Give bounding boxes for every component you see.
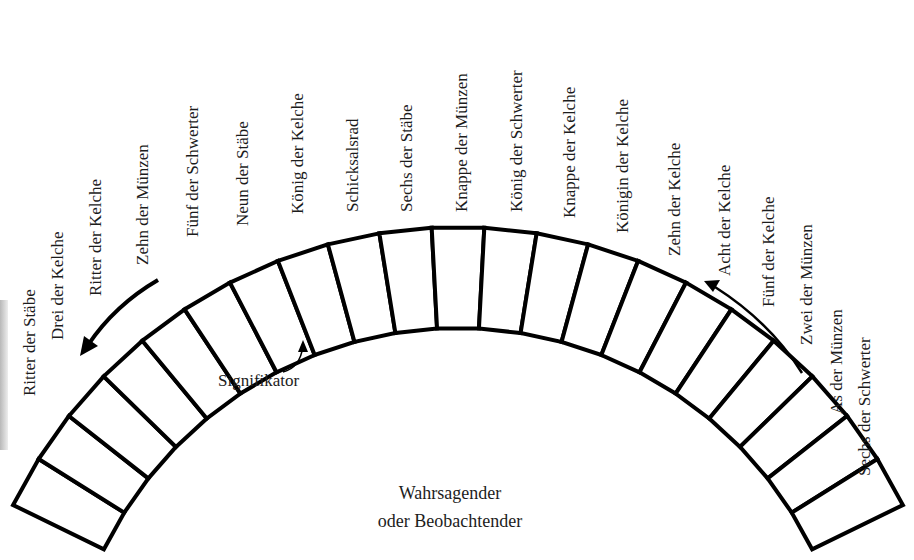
card-label: König der Kelche	[289, 93, 306, 214]
card-label: Acht der Kelche	[716, 165, 733, 276]
left-arrowhead-icon	[80, 336, 98, 356]
card-label: Königin der Kelche	[614, 99, 631, 233]
observer-label-line1: Wahrsagender	[330, 480, 570, 506]
card-label: Fünf der Kelche	[760, 197, 777, 307]
signifikator-label: Signifikator	[218, 371, 299, 391]
card-label: As der Münzen	[828, 309, 845, 414]
card-label: Ritter der Kelche	[87, 179, 104, 296]
card-label: Sechs der Stäbe	[398, 104, 415, 212]
card-label: Ritter der Stäbe	[21, 289, 38, 396]
card-label: Zehn der Münzen	[134, 144, 151, 265]
right-arrowhead-icon	[704, 280, 720, 292]
card-slot	[432, 228, 485, 329]
card-label: Fünf der Schwerter	[184, 106, 201, 237]
card-label: Zwei der Münzen	[798, 224, 815, 345]
card-label: König der Schwerter	[508, 70, 525, 212]
observer-label-line2: oder Beobachtender	[330, 508, 570, 534]
card-label: Drei der Kelche	[49, 231, 66, 340]
card-label: Neun der Stäbe	[234, 121, 251, 226]
card-label: Knappe der Kelche	[561, 87, 578, 218]
card-label: Zehn der Kelche	[666, 143, 683, 256]
card-label: Knappe der Münzen	[453, 73, 470, 212]
card-label: Schicksalsrad	[344, 119, 361, 212]
card-label: Sechs der Schwerter	[856, 337, 873, 476]
